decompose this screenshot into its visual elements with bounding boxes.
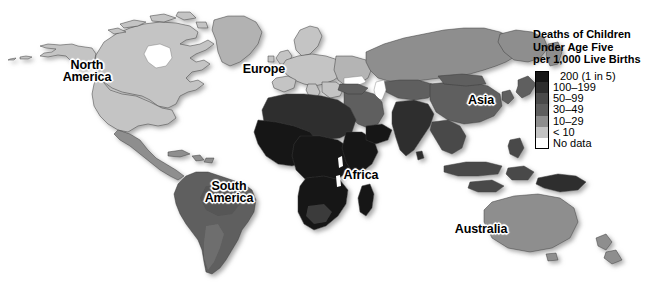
legend-swatch — [535, 82, 549, 93]
legend-row: No data — [535, 138, 662, 149]
legend-swatch — [535, 71, 549, 82]
map-legend: Deaths of Children Under Age Five per 1,… — [530, 28, 662, 149]
region-mongolia — [438, 74, 486, 86]
region-tasmania — [546, 253, 558, 261]
legend-swatch — [535, 138, 549, 149]
legend-swatch — [535, 93, 549, 104]
legend-row: 30–49 — [535, 104, 662, 115]
legend-label: 30–49 — [553, 104, 584, 115]
legend-swatch — [535, 127, 549, 138]
legend-title: Deaths of Children Under Age Five per 1,… — [533, 28, 662, 66]
legend-label: No data — [553, 138, 592, 149]
legend-entry-list: 200 (1 in 5)100–19950–9930–4910–29< 10No… — [535, 71, 662, 149]
world-map-figure: North America South America Europe Afric… — [0, 0, 663, 288]
legend-swatch — [535, 104, 549, 115]
legend-swatch — [535, 116, 549, 127]
